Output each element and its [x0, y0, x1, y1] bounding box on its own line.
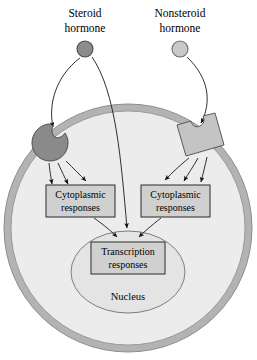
nonsteroid-label-line1: Nonsteroid [154, 7, 205, 19]
steroid-hormone-label: Steroid hormone [65, 7, 106, 34]
nonsteroid-label-line2: hormone [160, 22, 201, 34]
cytoplasmic-left-line1: Cytoplasmic [55, 189, 106, 200]
cytoplasmic-left-line2: responses [61, 202, 100, 213]
cytoplasmic-right-line2: responses [156, 202, 195, 213]
cytoplasmic-right-line1: Cytoplasmic [150, 189, 201, 200]
transcription-line1: Transcription [101, 246, 155, 257]
nonsteroid-hormone-marker [172, 41, 188, 57]
nonsteroid-to-receptor-arrow [187, 57, 207, 123]
cytoplasmic-responses-right: Cytoplasmic responses [141, 185, 210, 217]
transcription-responses: Transcription responses [91, 242, 165, 274]
steroid-label-line2: hormone [65, 22, 106, 34]
steroid-hormone-marker [77, 41, 93, 57]
nucleus-label: Nucleus [111, 291, 145, 302]
transcription-line2: responses [109, 259, 148, 270]
steroid-label-line1: Steroid [68, 7, 101, 19]
hormone-signaling-diagram: Nucleus Cytoplasmi [0, 0, 257, 360]
nonsteroid-hormone-label: Nonsteroid hormone [154, 7, 205, 34]
cytoplasmic-responses-left: Cytoplasmic responses [46, 185, 115, 217]
